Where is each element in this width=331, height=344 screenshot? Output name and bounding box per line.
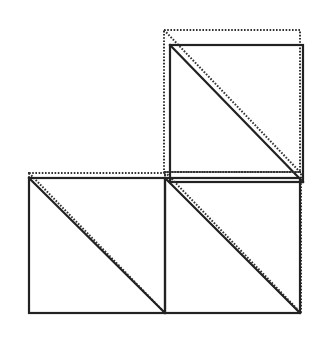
dotted-diagonal: [164, 30, 300, 172]
square-bottom-left: [29, 173, 165, 313]
solid-diagonal: [170, 45, 303, 182]
diagram-canvas: [0, 0, 331, 344]
solid-diagonal: [165, 178, 300, 313]
solid-diagonal: [29, 178, 165, 313]
dotted-diagonal: [165, 172, 301, 313]
square-top-right: [164, 30, 303, 182]
square-bottom-right: [165, 172, 301, 313]
